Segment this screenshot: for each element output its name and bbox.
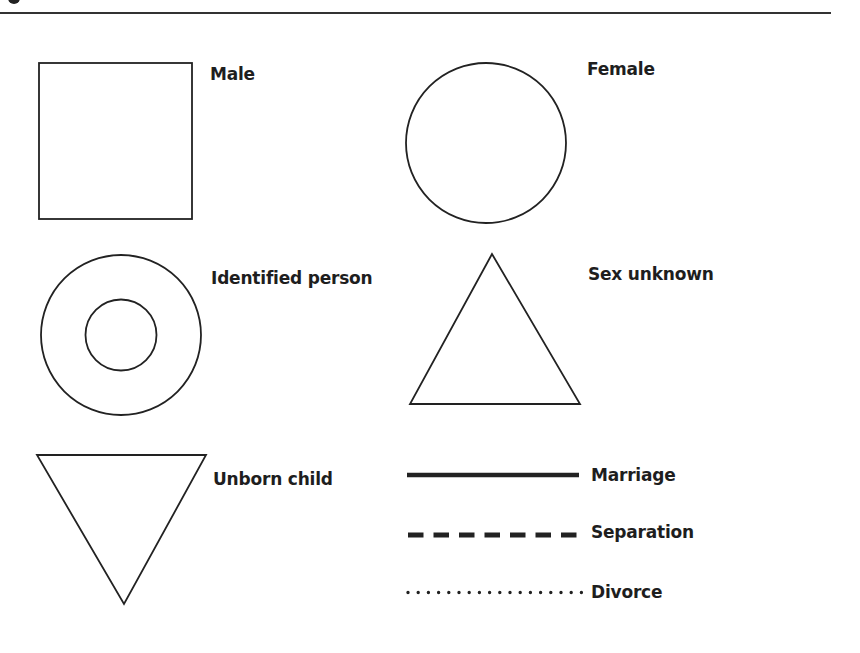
label-female: Female	[587, 59, 655, 79]
outer-circle	[41, 255, 201, 415]
label-unborn-child: Unborn child	[213, 469, 333, 489]
label-divorce: Divorce	[591, 582, 662, 602]
label-identified-person: Identified person	[211, 268, 373, 288]
genogram-legend-canvas	[0, 0, 860, 653]
label-sex-unknown: Sex unknown	[588, 264, 714, 284]
identified-person-symbol	[41, 255, 201, 415]
label-male: Male	[210, 64, 255, 84]
unborn-child-inverted-triangle-symbol	[37, 455, 206, 604]
inner-circle	[86, 300, 157, 371]
sex-unknown-triangle-symbol	[410, 254, 580, 404]
female-circle-symbol	[406, 63, 566, 223]
label-separation: Separation	[591, 522, 694, 542]
label-marriage: Marriage	[591, 465, 676, 485]
male-square-symbol	[39, 63, 192, 219]
